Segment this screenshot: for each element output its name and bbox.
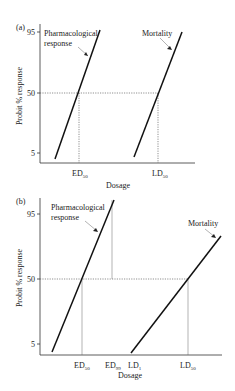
panel-b-xtick-ed50: ED50 <box>74 361 90 371</box>
panel-a: (a) 95 50 5 Probit % response Pharmacolo… <box>15 23 195 190</box>
panel-a-pharm-line <box>55 30 100 159</box>
panel-b-tag: (b) <box>16 197 26 206</box>
panel-a-pharm-label-1: Pharmacological <box>44 29 99 38</box>
panel-a-ylabel: Probit % response <box>15 66 24 125</box>
panel-a-xtick-ld50: LD50 <box>152 169 168 179</box>
panel-b-xtick-ed99: ED99 <box>105 361 121 371</box>
panel-b-ytick-5: 5 <box>31 340 35 349</box>
panel-b-mortality-line <box>131 236 221 353</box>
panel-a-tag: (a) <box>16 23 25 32</box>
figure: (a) 95 50 5 Probit % response Pharmacolo… <box>0 0 235 391</box>
panel-b-xtick-ld1: LD1 <box>128 361 142 371</box>
panel-a-xtick-ed50: ED50 <box>72 169 88 179</box>
panel-a-mortality-label: Mortality <box>142 29 172 38</box>
panel-a-ytick-50: 50 <box>27 89 35 98</box>
panel-b-ylabel: Probit % response <box>15 248 24 307</box>
panel-b-ytick-95: 95 <box>27 210 35 219</box>
panel-a-xlabel: Dosage <box>106 181 130 190</box>
panel-b-xtick-ld50: LD50 <box>180 361 196 371</box>
panel-b-pharm-label-2: response <box>51 213 79 222</box>
panel-b-xlabel: Dosage <box>118 371 142 380</box>
panel-b-ytick-50: 50 <box>27 275 35 284</box>
panel-a-ytick-95: 95 <box>27 28 35 37</box>
panel-b-pharm-label-1: Pharmacological <box>51 203 106 212</box>
panel-a-mortality-line <box>134 32 182 157</box>
panel-b: (b) 95 50 5 Probit % response Pharmacolo… <box>15 197 222 380</box>
panel-b-mortality-label: Mortality <box>188 219 218 228</box>
panel-a-pharm-label-2: response <box>44 39 72 48</box>
panel-a-ytick-5: 5 <box>31 149 35 158</box>
panel-b-pharm-line <box>52 200 114 352</box>
